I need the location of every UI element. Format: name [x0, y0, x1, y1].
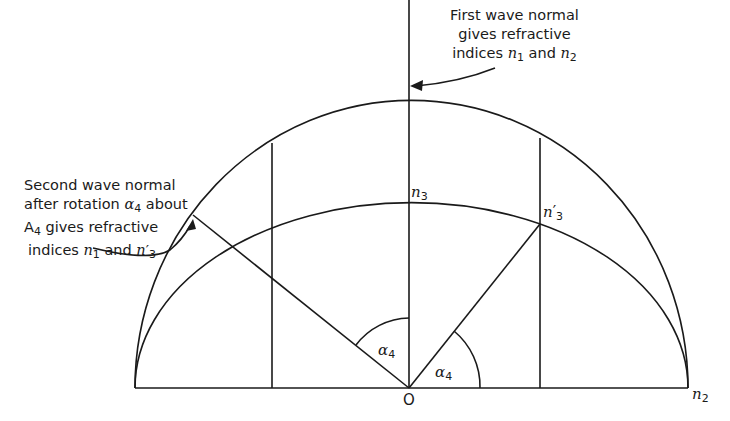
label-n2: n2: [692, 386, 709, 407]
text-after-rotation: after rotation: [24, 196, 124, 212]
subscript-4: 4: [34, 225, 41, 238]
symbol-n: n: [692, 385, 702, 403]
label-n3-prime: n′3: [543, 204, 563, 225]
symbol-alpha: α: [124, 196, 134, 212]
symbol-n1: n: [84, 242, 93, 258]
first-wave-arrowhead: [410, 80, 423, 91]
text-indices: indices: [452, 45, 508, 61]
first-wave-line3: indices n1 and n2: [437, 44, 592, 67]
text-and: and: [100, 242, 137, 258]
second-wave-line3: A4 gives refractive: [24, 218, 188, 241]
second-wave-line1: Second wave normal: [24, 176, 188, 195]
label-n3: n3: [411, 184, 428, 205]
subscript-3: 3: [556, 210, 563, 223]
first-wave-arrow-curve: [416, 68, 495, 86]
second-wave-line4: indices n1 and n′3: [24, 241, 188, 264]
first-wave-line1: First wave normal: [437, 6, 592, 25]
symbol-n1: n: [508, 45, 517, 61]
symbol-n: n: [543, 203, 553, 221]
label-origin: O: [403, 392, 415, 409]
line-to-n3-prime: [409, 224, 540, 388]
angle-label-lower: α4: [435, 364, 452, 385]
second-wave-annotation: Second wave normal after rotation α4 abo…: [24, 176, 188, 264]
subscript-4: 4: [388, 348, 395, 361]
first-wave-line2: gives refractive: [437, 25, 592, 44]
symbol-n: n: [411, 183, 421, 201]
inner-ellipse: [135, 203, 688, 388]
subscript-4: 4: [445, 370, 452, 383]
text-about: about: [141, 196, 187, 212]
text-gives-refractive: gives refractive: [41, 219, 158, 235]
outer-semicircle: [135, 100, 688, 388]
second-wave-line2: after rotation α4 about: [24, 195, 188, 218]
symbol-n3-prime: n: [136, 242, 145, 258]
first-wave-annotation: First wave normal gives refractive indic…: [437, 6, 592, 67]
second-wave-normal: [193, 215, 409, 388]
text-and: and: [524, 45, 561, 61]
symbol-alpha: α: [435, 363, 445, 381]
angle-arc-lower: [454, 331, 480, 388]
subscript-3: 3: [421, 190, 428, 203]
symbol-n2: n: [561, 45, 570, 61]
subscript-2: 2: [702, 392, 709, 405]
symbol-A: A: [24, 219, 34, 235]
symbol-alpha: α: [378, 341, 388, 359]
angle-label-upper: α4: [378, 342, 395, 363]
subscript-1: 1: [93, 248, 100, 261]
subscript-3: 3: [149, 248, 156, 261]
subscript-1: 1: [517, 51, 524, 64]
subscript-2: 2: [570, 51, 577, 64]
text-indices: indices: [28, 242, 84, 258]
